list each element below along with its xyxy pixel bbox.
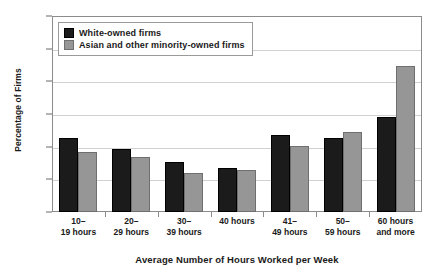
x-axis-tick-mark [263,212,264,217]
x-axis-tick-label-line: 59 hours [316,227,369,238]
bar-white-owned [324,138,343,212]
x-axis-title: Average Number of Hours Worked per Week [52,254,422,265]
x-axis-tick-label-line: 39 hours [158,227,211,238]
x-axis-tick-label-line: 40 hours [211,216,264,227]
bar-minority-owned [290,146,309,212]
x-axis-tick-label-line: 29 hours [105,227,158,238]
x-axis-tick-mark [105,212,106,217]
x-axis-tick-label: 20–29 hours [105,216,158,238]
x-axis-tick-mark [369,212,370,217]
bar-white-owned [112,149,131,212]
y-axis-tick-mark [46,48,52,49]
x-axis-tick-label-line: 10– [52,216,105,227]
x-axis-tick-labels: 10–19 hours20–29 hours30–39 hours40 hour… [52,216,422,238]
bar-white-owned [271,135,290,212]
bar-white-owned [59,138,78,212]
y-axis-title: Percentage of Firms [13,40,23,180]
y-axis-tick-mark [46,179,52,180]
x-axis-tick-label-line: 60 hours [369,216,422,227]
bar-minority-owned [396,66,415,212]
bar-chart-figure: Percentage of Firms 051015202530 10–19 h… [0,0,431,279]
bar-group [369,16,422,212]
legend-label-minority-owned: Asian and other minority-owned firms [79,40,245,50]
y-axis-tick-mark [46,81,52,82]
x-axis-tick-mark [316,212,317,217]
bar-minority-owned [343,132,362,212]
x-axis-tick-label: 50–59 hours [316,216,369,238]
chart-legend: White-owned firms Asian and other minori… [58,22,253,56]
x-axis-tick-label-line: and more [369,227,422,238]
x-axis-tick-label-line: 49 hours [263,227,316,238]
x-axis-tick-label: 40 hours [211,216,264,238]
x-axis-tick-mark [211,212,212,217]
legend-item-minority-owned: Asian and other minority-owned firms [64,39,245,51]
gray-square-icon [64,40,74,50]
x-axis-tick-mark [158,212,159,217]
bar-white-owned [165,162,184,212]
bar-minority-owned [78,152,97,212]
x-axis-tick-label: 60 hoursand more [369,216,422,238]
bar-group [316,16,369,212]
bar-white-owned [377,117,396,212]
bar-minority-owned [184,173,203,212]
bar-white-owned [218,168,237,212]
bar-minority-owned [237,170,256,212]
y-axis-tick-mark [46,146,52,147]
y-axis-tick-mark [46,16,52,17]
bar-group [263,16,316,212]
legend-item-white-owned: White-owned firms [64,27,245,39]
y-axis-tick-mark [46,114,52,115]
x-axis-tick-label-line: 30– [158,216,211,227]
x-axis-tick-label: 30–39 hours [158,216,211,238]
x-axis-tick-label: 41–49 hours [263,216,316,238]
x-axis-tick-label: 10–19 hours [52,216,105,238]
x-axis-tick-label-line: 41– [263,216,316,227]
x-axis-tick-label-line: 19 hours [52,227,105,238]
bar-minority-owned [131,157,150,212]
x-axis-tick-label-line: 50– [316,216,369,227]
y-axis-tick-mark [46,212,52,213]
x-axis-tick-label-line: 20– [105,216,158,227]
black-square-icon [64,28,74,38]
legend-label-white-owned: White-owned firms [79,28,161,38]
